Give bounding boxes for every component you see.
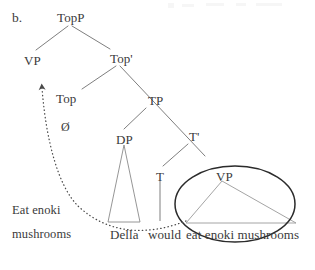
terminal-della: Della	[110, 228, 139, 241]
vp-triangle	[186, 181, 296, 223]
node-dp: DP	[116, 133, 133, 146]
node-t-bar: T'	[189, 130, 199, 143]
terminal-vp-span: eat enoki mushrooms	[186, 228, 299, 241]
fronted-vp-gloss-line2: mushrooms	[12, 228, 71, 241]
node-top-null-exponent: Ø	[61, 121, 70, 133]
node-vp-base: VP	[216, 170, 233, 183]
branch-topbar-top	[82, 66, 116, 89]
branch-tp-dp	[124, 108, 146, 129]
node-vp-fronted: VP	[24, 54, 41, 67]
scan-artifact	[236, 3, 246, 6]
panel-label: b.	[12, 11, 22, 25]
scan-artifact	[256, 3, 282, 6]
scan-artifact	[206, 3, 224, 6]
dp-triangle	[108, 145, 140, 222]
node-top-bar: Top'	[110, 52, 133, 65]
figure-canvas: b. TopP VP Top' Top Ø TP DP T' T VP Dell…	[0, 0, 315, 270]
node-tp: TP	[148, 94, 163, 107]
branch-tbar-t	[163, 144, 188, 166]
node-top: Top	[56, 92, 76, 105]
node-t: T	[156, 170, 164, 183]
scan-artifact	[182, 4, 194, 7]
scan-artifact	[168, 3, 174, 8]
terminal-would: would	[148, 228, 181, 241]
node-topp: TopP	[57, 11, 85, 24]
movement-arrow	[42, 88, 186, 230]
branch-topp-vp	[36, 26, 68, 50]
branch-topp-topbar	[72, 26, 110, 49]
fronted-vp-gloss-line1: Eat enoki	[12, 204, 60, 217]
